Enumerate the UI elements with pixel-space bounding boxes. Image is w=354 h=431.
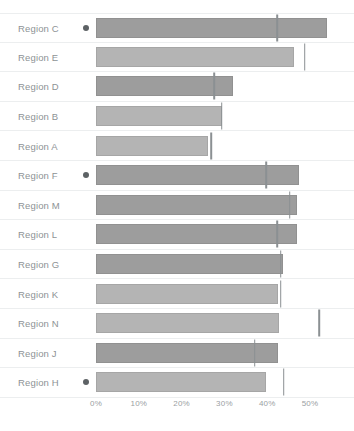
target-marker — [276, 14, 278, 41]
row-plot-area — [0, 250, 354, 279]
value-bar[interactable] — [96, 224, 297, 244]
target-marker — [221, 103, 223, 130]
row-plot-area — [0, 43, 354, 72]
table-row[interactable]: Region A — [0, 131, 354, 161]
table-row[interactable]: Region N — [0, 309, 354, 339]
value-bar[interactable] — [96, 343, 278, 363]
x-tick-label: 50% — [302, 399, 319, 408]
table-row[interactable]: Region C — [0, 13, 354, 43]
target-marker — [289, 191, 291, 218]
row-plot-area — [0, 339, 354, 368]
row-plot-area — [0, 368, 354, 397]
table-row[interactable]: Region L — [0, 220, 354, 250]
table-row[interactable]: Region F — [0, 161, 354, 191]
table-row[interactable]: Region D — [0, 72, 354, 102]
x-tick-label: 20% — [173, 399, 190, 408]
table-row[interactable]: Region M — [0, 191, 354, 221]
row-plot-area — [0, 279, 354, 308]
value-bar[interactable] — [96, 136, 208, 156]
value-bar[interactable] — [96, 106, 222, 126]
bullet-bar-chart: Region CRegion ERegion DRegion BRegion A… — [0, 0, 354, 431]
target-marker — [254, 339, 256, 366]
value-bar[interactable] — [96, 47, 294, 67]
table-row[interactable]: Region K — [0, 279, 354, 309]
x-tick-label: 30% — [216, 399, 233, 408]
x-tick-label: 0% — [90, 399, 102, 408]
target-marker — [304, 43, 306, 70]
row-plot-area — [0, 102, 354, 131]
value-bar[interactable] — [96, 18, 327, 38]
value-bar[interactable] — [96, 254, 283, 274]
value-bar[interactable] — [96, 284, 278, 304]
target-marker — [283, 369, 285, 396]
target-marker — [276, 221, 278, 248]
x-axis: 0%10%20%30%40%50% — [0, 399, 354, 415]
target-marker — [318, 310, 320, 337]
row-plot-area — [0, 14, 354, 42]
row-plot-area — [0, 220, 354, 249]
row-plot-area — [0, 72, 354, 101]
target-marker — [213, 73, 215, 100]
table-row[interactable]: Region E — [0, 43, 354, 73]
target-marker — [210, 132, 212, 159]
row-plot-area — [0, 131, 354, 160]
row-plot-area — [0, 309, 354, 338]
table-row[interactable]: Region B — [0, 102, 354, 132]
row-plot-area — [0, 191, 354, 220]
table-row[interactable]: Region J — [0, 339, 354, 369]
x-tick-label: 40% — [259, 399, 276, 408]
x-tick-label: 10% — [130, 399, 147, 408]
table-row[interactable]: Region G — [0, 250, 354, 280]
chart-rows: Region CRegion ERegion DRegion BRegion A… — [0, 13, 354, 398]
value-bar[interactable] — [96, 195, 297, 215]
value-bar[interactable] — [96, 313, 279, 333]
value-bar[interactable] — [96, 165, 299, 185]
target-marker — [280, 280, 282, 307]
target-marker — [265, 162, 267, 189]
table-row[interactable]: Region H — [0, 368, 354, 398]
value-bar[interactable] — [96, 372, 266, 392]
target-marker — [280, 251, 282, 278]
row-plot-area — [0, 161, 354, 190]
